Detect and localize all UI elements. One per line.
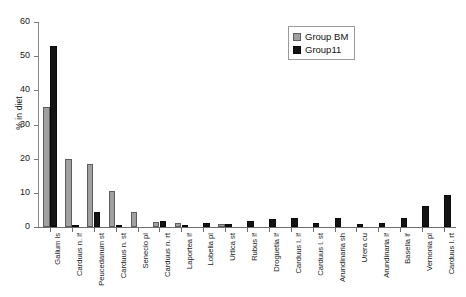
bar-group bbox=[433, 22, 455, 227]
bar-group-bm bbox=[218, 224, 225, 227]
x-axis-label: Carduus n. lf bbox=[75, 233, 84, 276]
x-tick bbox=[225, 228, 226, 232]
x-axis-label: Carduus n. st bbox=[119, 233, 128, 278]
x-tick bbox=[269, 228, 270, 232]
bar-group-bm bbox=[109, 191, 116, 227]
bar-group11 bbox=[72, 225, 79, 227]
legend-label-group-bm: Group BM bbox=[305, 31, 348, 42]
bar-group-bm bbox=[65, 159, 72, 227]
x-axis-label: Vernonia pl bbox=[425, 233, 434, 271]
x-axis-label: Basella lf bbox=[403, 233, 412, 264]
x-tick bbox=[356, 228, 357, 232]
legend-swatch-group-bm bbox=[293, 33, 301, 41]
x-axis-label: Droguetia lf bbox=[272, 233, 281, 272]
bar-group-bm bbox=[87, 164, 94, 227]
x-tick bbox=[444, 228, 445, 232]
legend-item-group11: Group11 bbox=[293, 43, 348, 56]
bar-group11 bbox=[225, 224, 232, 227]
x-tick bbox=[247, 228, 248, 232]
bar-group11 bbox=[182, 225, 189, 227]
bar-group bbox=[192, 22, 214, 227]
bar-group bbox=[258, 22, 280, 227]
bar-group bbox=[367, 22, 389, 227]
bar-group bbox=[170, 22, 192, 227]
x-tick bbox=[94, 228, 95, 232]
bar-group bbox=[61, 22, 83, 227]
x-axis-label: Senecio pl bbox=[141, 233, 150, 268]
x-tick bbox=[181, 228, 182, 232]
y-tick-label: 0 bbox=[4, 221, 30, 231]
x-axis-label: Peucedanum st bbox=[97, 233, 106, 286]
bar-group bbox=[214, 22, 236, 227]
bar-group-bm bbox=[43, 107, 50, 227]
y-tick-label: 30 bbox=[4, 119, 30, 129]
x-axis-label: Carduus l. rt bbox=[447, 233, 456, 274]
bar-group bbox=[39, 22, 61, 227]
bar-group11 bbox=[247, 221, 254, 227]
x-tick bbox=[313, 228, 314, 232]
x-tick bbox=[72, 228, 73, 232]
bar-group11 bbox=[291, 218, 298, 227]
chart-legend: Group BM Group11 bbox=[288, 26, 355, 60]
bar-group11 bbox=[379, 223, 386, 227]
x-axis-label: Carduus n. rt bbox=[163, 233, 172, 277]
y-tick-label: 40 bbox=[4, 84, 30, 94]
x-tick bbox=[400, 228, 401, 232]
bar-group-bm bbox=[131, 212, 138, 227]
bar-group11 bbox=[313, 223, 320, 227]
x-tick bbox=[159, 228, 160, 232]
x-axis-label: Laportea lf bbox=[185, 233, 194, 269]
x-axis-label: Carduus l. lf bbox=[294, 233, 303, 274]
bar-group11 bbox=[50, 46, 57, 227]
y-tick-label: 50 bbox=[4, 50, 30, 60]
x-tick bbox=[291, 228, 292, 232]
bar-group11 bbox=[116, 225, 123, 227]
x-tick bbox=[138, 228, 139, 232]
bar-group11 bbox=[444, 195, 451, 227]
x-axis-label: Urtica st bbox=[228, 233, 237, 261]
bar-group bbox=[148, 22, 170, 227]
bar-group11 bbox=[94, 212, 101, 227]
legend-item-group-bm: Group BM bbox=[293, 30, 348, 43]
legend-swatch-group11 bbox=[293, 46, 301, 54]
y-tick-label: 60 bbox=[4, 16, 30, 26]
y-tick-label: 10 bbox=[4, 187, 30, 197]
plot-area bbox=[39, 22, 455, 227]
legend-label-group11: Group11 bbox=[305, 44, 341, 55]
x-tick bbox=[335, 228, 336, 232]
bar-group-bm bbox=[153, 222, 160, 227]
x-tick bbox=[50, 228, 51, 232]
x-axis-label: Urera cu bbox=[360, 233, 369, 262]
bar-group-bm bbox=[175, 223, 182, 227]
x-axis-label: Rubus lf bbox=[250, 233, 259, 261]
bar-chart: % in diet 0102030405060 Galium lsCarduus… bbox=[0, 0, 466, 297]
x-axis-label: Carduus l. st bbox=[316, 233, 325, 276]
bar-group11 bbox=[422, 206, 429, 227]
x-axis-label: Galium ls bbox=[53, 233, 62, 265]
bar-group bbox=[389, 22, 411, 227]
x-tick bbox=[203, 228, 204, 232]
x-tick bbox=[422, 228, 423, 232]
bar-group bbox=[127, 22, 149, 227]
bar-group11 bbox=[357, 224, 364, 227]
bar-group11 bbox=[335, 218, 342, 227]
bar-group11 bbox=[160, 221, 167, 227]
x-axis-label: Arundinaria sh bbox=[338, 233, 347, 282]
bar-group bbox=[236, 22, 258, 227]
bar-group bbox=[83, 22, 105, 227]
x-axis-label: Arundinaria lf bbox=[382, 233, 391, 278]
bar-group bbox=[411, 22, 433, 227]
x-axis-label: Lobelia pl bbox=[206, 233, 215, 266]
x-tick bbox=[378, 228, 379, 232]
bar-group11 bbox=[269, 219, 276, 227]
bar-group11 bbox=[203, 223, 210, 227]
y-tick-label: 20 bbox=[4, 153, 30, 163]
bar-group bbox=[105, 22, 127, 227]
x-tick bbox=[116, 228, 117, 232]
bar-group11 bbox=[401, 218, 408, 227]
